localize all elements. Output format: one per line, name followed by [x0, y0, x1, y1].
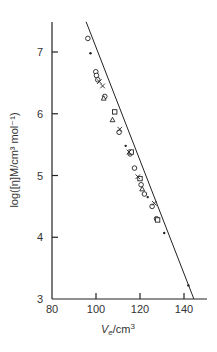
square-marker: [155, 218, 159, 222]
dot-marker: [89, 52, 91, 54]
square-marker: [129, 150, 133, 154]
circle-marker: [86, 36, 91, 41]
circle-marker: [142, 192, 147, 197]
dot-marker: [147, 196, 149, 198]
x-axis-title: Ve/cm3: [101, 322, 136, 337]
circle-marker: [150, 204, 155, 209]
dot-marker: [125, 145, 127, 147]
y-tick-label: 6: [37, 108, 43, 120]
y-tick-label: 7: [37, 46, 43, 58]
chart-svg: 3456780100120140 log([η]M/cm³ mol⁻¹) Ve/…: [0, 0, 217, 352]
x-tick-label: 120: [131, 303, 149, 315]
x-tick-label: 100: [87, 303, 105, 315]
circle-marker: [132, 166, 137, 171]
dot-marker: [187, 284, 189, 286]
circle-marker: [139, 182, 144, 187]
y-tick-label: 4: [37, 231, 43, 243]
axes: 3456780100120140: [37, 22, 207, 315]
dot-marker: [163, 232, 165, 234]
regression-line: [86, 22, 194, 299]
y-tick-label: 3: [37, 293, 43, 305]
x-tick-label: 80: [46, 303, 58, 315]
triangle-marker: [110, 117, 115, 121]
y-tick-label: 5: [37, 170, 43, 182]
cross-marker: [100, 84, 105, 89]
x-tick-label: 140: [175, 303, 193, 315]
fit-line: [86, 22, 194, 299]
y-axis-title: log([η]M/cm³ mol⁻¹): [8, 112, 20, 207]
square-marker: [113, 110, 117, 114]
